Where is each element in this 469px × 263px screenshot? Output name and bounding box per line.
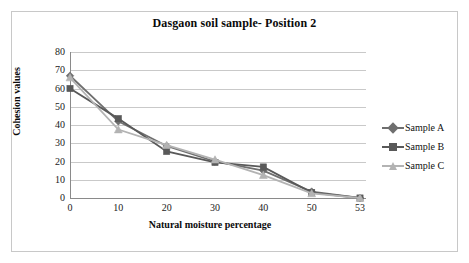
chart-legend: Sample ASample BSample C [382, 118, 466, 175]
chart-figure: Dasgaon soil sample- Position 2 01020304… [0, 0, 469, 263]
legend-item-sample-c[interactable]: Sample C [382, 156, 466, 175]
x-tick-label: 30 [200, 202, 230, 213]
y-tick-label: 80 [38, 46, 65, 57]
series-sample-b [67, 85, 363, 201]
x-tick-label: 40 [248, 202, 278, 213]
y-tick-label: 20 [38, 156, 65, 167]
legend-label: Sample B [404, 141, 444, 152]
legend-item-sample-a[interactable]: Sample A [382, 118, 466, 137]
y-tick-label: 40 [38, 119, 65, 130]
triangle-marker-icon [382, 160, 404, 172]
legend-item-sample-b[interactable]: Sample B [382, 137, 466, 156]
x-tick-label: 10 [103, 202, 133, 213]
series-sample-c [66, 74, 364, 202]
legend-label: Sample C [404, 160, 444, 171]
diamond-marker-icon [382, 122, 404, 134]
x-tick-label: 0 [55, 202, 85, 213]
y-tick-label: 10 [38, 174, 65, 185]
legend-label: Sample A [404, 122, 444, 133]
data-point-marker [164, 148, 170, 154]
y-tick-label: 30 [38, 137, 65, 148]
square-marker-icon [382, 141, 404, 153]
x-tick-label: 53 [345, 202, 375, 213]
x-tick-label: 20 [152, 202, 182, 213]
x-axis-tick-labels: 0102030405053 [0, 202, 469, 218]
y-axis-title: Cohesion values [11, 47, 22, 157]
chart-title: Dasgaon soil sample- Position 2 [0, 16, 469, 31]
data-point-marker [115, 116, 121, 122]
y-tick-label: 60 [38, 83, 65, 94]
x-tick-label: 50 [297, 202, 327, 213]
data-point-marker [67, 85, 73, 91]
y-tick-label: 50 [38, 101, 65, 112]
plot-series-layer [70, 49, 366, 201]
data-point-marker [260, 164, 266, 170]
x-axis-title: Natural moisture percentage [60, 219, 360, 230]
series-sample-a [66, 72, 364, 202]
y-tick-label: 70 [38, 64, 65, 75]
